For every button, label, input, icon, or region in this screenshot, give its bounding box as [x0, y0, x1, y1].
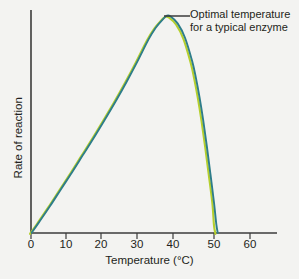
x-tick-label-40: 40 [158, 238, 188, 250]
x-tick-label-0: 0 [16, 238, 46, 250]
annotation-line-2: for a typical enzyme [190, 21, 290, 34]
enzyme-temperature-chart: Optimal temperature for a typical enzyme… [0, 0, 299, 279]
annotation-label: Optimal temperature for a typical enzyme [190, 8, 290, 34]
enzyme-rate-curve-yellow-green [30, 16, 215, 233]
x-axis-title: Temperature (°C) [0, 254, 299, 268]
annotation-line-1: Optimal temperature [190, 8, 290, 21]
x-tick-label-50: 50 [199, 238, 229, 250]
x-tick-label-60: 60 [235, 238, 265, 250]
enzyme-rate-curve-teal [32, 15, 218, 232]
x-tick-label-20: 20 [86, 238, 116, 250]
x-tick-label-30: 30 [122, 238, 152, 250]
y-axis-title: Rate of reaction [12, 78, 26, 198]
x-tick-label-10: 10 [51, 238, 81, 250]
